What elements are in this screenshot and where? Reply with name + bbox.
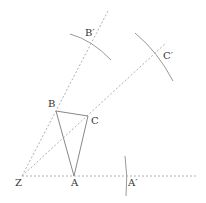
ray-z-b [22,11,108,176]
construction-rays [22,11,198,176]
label-b-prime: B′ [85,28,95,38]
arc-a-prime [125,156,127,196]
triangle-abc [56,111,88,176]
label-c-prime: C′ [163,51,173,61]
label-c: C [91,116,99,126]
ray-z-c [22,43,166,176]
label-b: B [48,99,55,109]
dilation-diagram [0,0,206,203]
label-z: Z [15,178,22,188]
compass-arcs [70,33,173,196]
label-a-prime: A′ [128,178,138,188]
label-a: A [71,178,78,188]
